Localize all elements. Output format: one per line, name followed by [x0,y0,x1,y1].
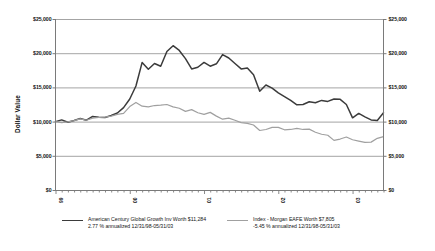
y-axis-tick-label: $10,000 [12,119,52,125]
legend-fund-line1: American Century Global Growth Inv Worth… [88,216,206,223]
y-axis-tick-label: $15,000 [12,84,52,90]
series-lines [56,46,384,143]
y-axis-tick-label: $20,000 [12,50,52,56]
y-axis-tick-label: $5,000 [12,153,52,159]
chart-container: Dollar Value $0$5,000$10,000$15,000$20,0… [0,0,435,251]
legend-fund-line2: 2.77 % annualized 12/31/98-05/31/03 [88,223,206,230]
legend-swatch-fund-icon [62,220,83,221]
x-axis-tick-label: 00 [132,197,138,203]
legend-index-line2: -5.45 % annualized 12/31/98-05/31/03 [253,223,340,230]
y-axis-tick-label: $0 [389,187,429,193]
series-line-fund [56,46,384,123]
y-axis-tick-label: $20,000 [389,50,429,56]
legend-index-text: Index - Morgan EAFE Worth $7,805 -5.45 %… [253,216,340,231]
x-axis-tick-label: 03 [355,197,361,203]
legend-fund-text: American Century Global Growth Inv Worth… [88,216,206,231]
legend-index-line1: Index - Morgan EAFE Worth $7,805 [253,216,340,223]
y-axis-tick-label: $5,000 [389,153,429,159]
legend-item-fund: American Century Global Growth Inv Worth… [62,216,206,231]
y-axis-tick-label: $10,000 [389,119,429,125]
x-axis-tick-label: 02 [280,197,286,203]
x-axis-tick-label: 01 [206,197,212,203]
axis-ticks [53,20,387,195]
y-axis-tick-label: $15,000 [389,84,429,90]
y-axis-tick-label: $25,000 [389,16,429,22]
gridlines [56,20,384,191]
chart-legend: American Century Global Growth Inv Worth… [0,216,435,242]
y-axis-tick-label: $25,000 [12,16,52,22]
y-axis-tick-label: $0 [12,187,52,193]
legend-item-index: Index - Morgan EAFE Worth $7,805 -5.45 %… [227,216,340,231]
x-axis-tick-label: 99 [58,197,64,203]
y-axis-title: Dollar Value [14,95,21,133]
plot-area [0,0,435,251]
legend-swatch-index-icon [227,220,248,221]
